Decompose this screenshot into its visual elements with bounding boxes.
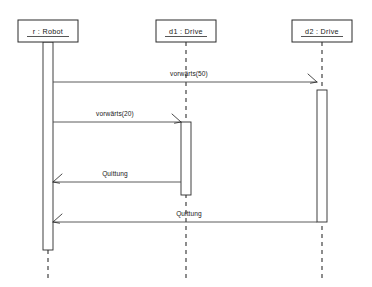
lifeline-d2-label: d2 : Drive xyxy=(305,27,339,36)
lifeline-robot-activation-bar xyxy=(43,42,53,250)
message-vorwaerts-20[interactable]: vorwärts(20) xyxy=(53,110,181,123)
message-quittung-d2-label: Quittung xyxy=(176,210,202,218)
message-vorwaerts-20-label: vorwärts(20) xyxy=(96,110,134,118)
message-vorwaerts-50[interactable]: vorwärts(50) xyxy=(53,70,317,83)
lifeline-d1[interactable]: d1 : Drive xyxy=(156,20,216,278)
lifeline-robot[interactable]: r : Robot xyxy=(18,20,78,278)
message-vorwaerts-50-label: vorwärts(50) xyxy=(170,70,208,78)
message-quittung-d1-label: Quittung xyxy=(102,170,128,178)
lifeline-robot-label: r : Robot xyxy=(33,27,63,36)
message-quittung-d1[interactable]: Quittung xyxy=(53,170,181,183)
sequence-diagram-svg: r : Robot d1 : Drive d2 : Drive vorwärts… xyxy=(0,0,372,287)
lifeline-d1-activation-bar xyxy=(181,122,191,195)
sequence-diagram-canvas: r : Robot d1 : Drive d2 : Drive vorwärts… xyxy=(0,0,372,287)
lifeline-d2[interactable]: d2 : Drive xyxy=(292,20,352,278)
lifeline-d1-label: d1 : Drive xyxy=(169,27,203,36)
lifeline-d2-activation-bar xyxy=(317,90,327,222)
message-quittung-d2[interactable]: Quittung xyxy=(53,210,317,223)
